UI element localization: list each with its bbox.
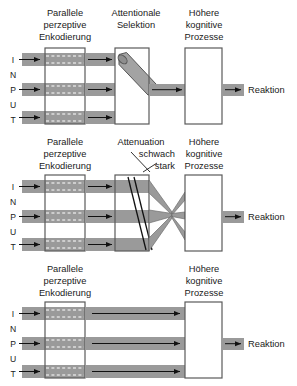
- cognitive-box-2: [185, 175, 222, 251]
- heading-line: Enkodierung: [39, 161, 91, 171]
- heading-encoding-1: Parallele perzeptive Enkodierung: [39, 8, 91, 42]
- output-2: Reaktion: [222, 211, 285, 223]
- convergence-2: [149, 180, 185, 251]
- heading-line: perzeptive: [44, 149, 87, 159]
- heading-selection-1: Attentionale Selektion: [111, 8, 160, 30]
- heading-line: Parallele: [47, 8, 83, 18]
- heading-line: perzeptive: [44, 276, 87, 286]
- input-letter: U: [10, 100, 16, 110]
- cognitive-box-1: [185, 48, 222, 124]
- input-letter: U: [10, 354, 16, 364]
- encoding-bands-3: [45, 307, 85, 378]
- encoding-bands-1: [45, 53, 85, 124]
- annotation-stark: stark: [155, 161, 175, 171]
- heading-line: Prozesse: [185, 32, 224, 42]
- heading-line: Attenuation: [117, 137, 164, 147]
- heading-line: Parallele: [47, 137, 83, 147]
- input-letter: I: [12, 55, 14, 65]
- panel-attenuation: Parallele perzeptive Enkodierung Attenua…: [10, 137, 285, 252]
- input-letter: P: [10, 85, 16, 95]
- input-channels-2: [19, 180, 45, 251]
- input-channels-1: [19, 53, 45, 124]
- input-letter: U: [10, 227, 16, 237]
- heading-line: kognitive: [186, 20, 223, 30]
- input-letter: I: [12, 309, 14, 319]
- attenuation-bands-2: [115, 177, 152, 251]
- heading-selection-2: Attenuation: [117, 137, 164, 147]
- input-letter: T: [10, 369, 16, 379]
- heading-line: Enkodierung: [39, 32, 91, 42]
- cognitive-box-3: [185, 302, 222, 378]
- input-letter: N: [10, 324, 16, 334]
- annotations-2: schwach stark: [131, 149, 175, 172]
- input-label-2: I N P U T: [10, 182, 16, 252]
- annotation-schwach: schwach: [139, 149, 175, 159]
- heading-line: kognitive: [186, 276, 223, 286]
- heading-cognitive-2: Höhere kognitive Prozesse: [185, 137, 224, 171]
- heading-cognitive-1: Höhere kognitive Prozesse: [185, 8, 224, 42]
- panel-late-selection: Parallele perzeptive Enkodierung Höhere …: [10, 264, 285, 379]
- heading-line: perzeptive: [44, 20, 87, 30]
- output-3: Reaktion: [222, 338, 285, 350]
- heading-line: Selektion: [117, 20, 155, 30]
- input-letter: N: [10, 197, 16, 207]
- selected-band-1: [149, 84, 185, 96]
- heading-line: Attentionale: [111, 8, 160, 18]
- input-label-1: I N P U T: [10, 55, 16, 125]
- heading-line: Höhere: [189, 8, 220, 18]
- heading-line: Prozesse: [185, 161, 224, 171]
- input-label-3: I N P U T: [10, 309, 16, 379]
- mid-bands-1: [85, 53, 115, 124]
- output-label: Reaktion: [248, 339, 285, 349]
- input-letter: P: [10, 339, 16, 349]
- heading-line: Höhere: [189, 264, 220, 274]
- mid-bands-2: [85, 180, 115, 251]
- heading-line: Höhere: [189, 137, 220, 147]
- heading-line: Parallele: [47, 264, 83, 274]
- panel-early-selection: Parallele perzeptive Enkodierung Attenti…: [10, 8, 285, 125]
- encoding-bands-2: [45, 180, 85, 251]
- input-channels-3: [19, 307, 45, 378]
- input-letter: N: [10, 70, 16, 80]
- input-letter: I: [12, 182, 14, 192]
- heading-encoding-3: Parallele perzeptive Enkodierung: [39, 264, 91, 298]
- diagram-figure: Parallele perzeptive Enkodierung Attenti…: [0, 0, 297, 386]
- through-bands-3: [85, 307, 185, 378]
- heading-encoding-2: Parallele perzeptive Enkodierung: [39, 137, 91, 171]
- heading-line: kognitive: [186, 149, 223, 159]
- heading-cognitive-3: Höhere kognitive Prozesse: [185, 264, 224, 298]
- input-letter: T: [10, 242, 16, 252]
- heading-line: Enkodierung: [39, 288, 91, 298]
- input-letter: T: [10, 115, 16, 125]
- heading-line: Prozesse: [185, 288, 224, 298]
- output-label: Reaktion: [248, 85, 285, 95]
- output-label: Reaktion: [248, 212, 285, 222]
- input-letter: P: [10, 212, 16, 222]
- output-1: Reaktion: [222, 84, 285, 96]
